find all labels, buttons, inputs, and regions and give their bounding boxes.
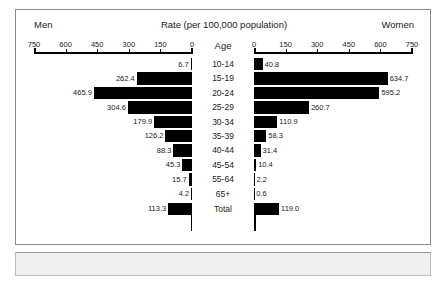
women-bar-value: 58.3 [268,131,283,140]
pyramid-row: 304.625-29260.7 [16,100,432,114]
axis-tick-label: 150 [279,40,292,49]
women-bar [254,116,277,128]
age-group-label: 40-44 [192,143,254,157]
men-zero-baseline [191,214,193,231]
men-bar-value: 45.3 [166,160,181,169]
women-axis-tick-labels: 0150300450600750 [254,40,412,51]
age-group-label: 30-34 [192,115,254,129]
pyramid-row: 15.755-642.2 [16,172,432,186]
women-bar-value: 0.6 [256,189,266,198]
axis-tick-mark [97,49,98,53]
axis-tick-mark [349,49,350,53]
axis-tick-mark [66,49,67,53]
men-bar-value: 304.6 [107,103,126,112]
axis-tick-mark [160,49,161,53]
men-bar-cell: 262.4 [34,71,192,85]
men-bar-cell: 6.7 [34,57,192,71]
men-bar-cell: 4.2 [34,187,192,201]
men-bar-cell: 126.2 [34,129,192,143]
men-bar-value: 113.3 [148,204,166,213]
men-bar-value: 179.9 [133,117,152,126]
men-bar [137,72,192,84]
axis-tick-mark [129,49,130,53]
men-bar-cell: 15.7 [34,172,192,186]
women-bar-cell: 110.9 [254,115,412,129]
women-bar-cell: 0.6 [254,187,412,201]
women-bar-value: 2.2 [256,175,266,184]
women-bar-value: 110.9 [279,117,297,126]
age-group-label: 25-29 [192,100,254,114]
axis-tick-label: 150 [154,40,167,49]
age-group-label: 65+ [192,187,254,201]
pyramid-row: 45.345-5410.4 [16,158,432,172]
women-bar [254,159,256,171]
women-bar-value: 595.2 [381,88,400,97]
age-group-label: Total [192,202,254,216]
men-bar [128,101,192,113]
women-axis-line [254,52,412,54]
men-bar-cell: 88.3 [34,143,192,157]
women-bar [254,87,379,99]
chart-frame: Men Rate (per 100,000 population) Women … [15,9,431,245]
chart-title: Rate (per 100,000 population) [16,19,432,30]
women-bar-cell: 260.7 [254,100,412,114]
axis-tick-label: 450 [91,40,104,49]
age-group-label: 10-14 [192,57,254,71]
population-pyramid-figure: Men Rate (per 100,000 population) Women … [0,0,445,282]
pyramid-row: 262.415-19634.7 [16,71,432,85]
axis-tick-mark [34,48,36,54]
women-bar-value: 119.0 [281,204,299,213]
men-bar-cell: 304.6 [34,100,192,114]
men-bar-cell: 465.9 [34,86,192,100]
women-bar [254,58,263,70]
axis-tick-mark [317,49,318,53]
women-bar [254,203,279,215]
men-bar-value: 126.2 [145,131,164,140]
women-bar-cell: 634.7 [254,71,412,85]
men-bar-value: 465.9 [73,88,92,97]
footer-band [15,252,431,276]
men-bar-value: 4.2 [179,189,189,198]
axis-tick-mark [380,49,381,53]
age-group-label: 55-64 [192,172,254,186]
women-bar-value: 260.7 [311,103,330,112]
men-bar-cell: 113.3 [34,202,192,216]
women-bar-cell: 40.8 [254,57,412,71]
women-zero-baseline [254,214,256,231]
women-bar-cell: 31.4 [254,143,412,157]
pyramid-row: 179.930-34110.9 [16,115,432,129]
women-panel-label: Women [381,19,414,30]
women-bar [254,72,388,84]
men-bar [94,87,192,99]
axis-tick-label: 600 [374,40,387,49]
age-column-heading: Age [192,40,254,51]
pyramid-row: 465.920-24595.2 [16,86,432,100]
axis-tick-mark [286,49,287,53]
men-axis-line [34,52,192,54]
women-bar [254,101,309,113]
age-group-label: 20-24 [192,86,254,100]
axis-tick-label: 300 [123,40,136,49]
men-bar [165,130,192,142]
pyramid-row: 88.340-4431.4 [16,143,432,157]
women-bar-cell: 10.4 [254,158,412,172]
age-group-label: 15-19 [192,71,254,85]
women-bar [254,144,261,156]
axis-tick-label: 600 [59,40,72,49]
women-bar [254,130,266,142]
women-bar-value: 40.8 [265,60,280,69]
women-bar-value: 31.4 [263,146,278,155]
age-group-label: 45-54 [192,158,254,172]
women-bar-value: 10.4 [258,160,273,169]
women-bar-cell: 595.2 [254,86,412,100]
axis-tick-mark [254,48,256,54]
men-axis-tick-labels: 7506004503001500 [34,40,192,51]
men-bar [182,159,192,171]
women-bar-cell: 2.2 [254,172,412,186]
women-bar-cell: 119.0 [254,202,412,216]
men-bar-value: 88.3 [157,146,172,155]
men-bar-cell: 179.9 [34,115,192,129]
age-group-label: 35-39 [192,129,254,143]
axis-tick-mark [411,48,413,54]
axis-tick-label: 300 [311,40,324,49]
